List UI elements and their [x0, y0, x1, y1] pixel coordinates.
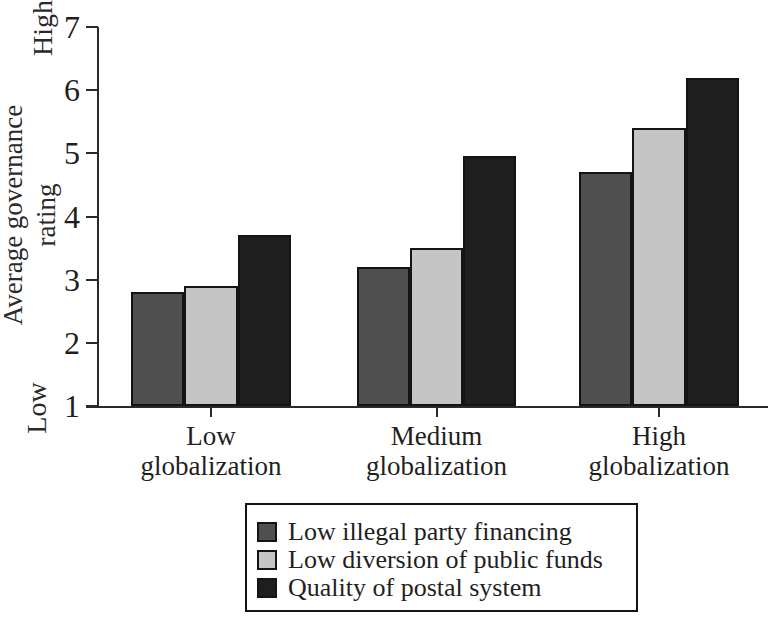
- legend-row: Low diversion of public funds: [257, 546, 636, 574]
- x-category-label: Lowglobalization: [101, 421, 321, 481]
- x-tick: [210, 408, 212, 417]
- legend-label: Low diversion of public funds: [288, 546, 603, 574]
- legend: Low illegal party financingLow diversion…: [245, 503, 638, 612]
- bar-3-2: [632, 128, 685, 406]
- legend-row: Quality of postal system: [257, 574, 636, 602]
- x-tick: [436, 408, 438, 417]
- y-tick-label: 6: [40, 74, 80, 106]
- y-tick: [86, 405, 98, 407]
- bar-1-3: [238, 235, 291, 406]
- y-tick: [86, 216, 98, 218]
- bar-3-1: [579, 172, 632, 406]
- bar-1-2: [184, 286, 237, 406]
- bar-2-3: [463, 156, 516, 406]
- legend-swatch-icon: [257, 550, 277, 570]
- y-tick-label: 2: [40, 327, 80, 359]
- y-tick-label: 7: [40, 11, 80, 43]
- y-tick: [86, 26, 98, 28]
- bar-3-3: [686, 78, 739, 406]
- y-axis-line: [97, 27, 99, 408]
- y-axis-title-line1: Average governance: [0, 65, 30, 365]
- legend-label: Quality of postal system: [288, 574, 541, 602]
- y-tick: [86, 342, 98, 344]
- y-tick: [86, 279, 98, 281]
- legend-swatch-icon: [257, 522, 277, 542]
- y-tick-label: 3: [40, 264, 80, 296]
- y-tick: [86, 89, 98, 91]
- bar-2-1: [357, 267, 410, 406]
- x-axis-line: [86, 406, 768, 408]
- legend-label: Low illegal party financing: [288, 518, 572, 546]
- legend-swatch-icon: [257, 578, 277, 598]
- y-tick-label: 4: [40, 201, 80, 233]
- legend-row: Low illegal party financing: [257, 518, 636, 546]
- x-category-label: Mediumglobalization: [327, 421, 547, 481]
- y-tick: [86, 152, 98, 154]
- chart-canvas: Average governance rating High Low 12345…: [0, 0, 772, 619]
- bar-1-1: [131, 292, 184, 406]
- y-tick-label: 5: [40, 137, 80, 169]
- y-tick-label: 1: [40, 390, 80, 422]
- x-tick: [658, 408, 660, 417]
- bar-2-2: [410, 248, 463, 406]
- x-category-label: Highglobalization: [549, 421, 769, 481]
